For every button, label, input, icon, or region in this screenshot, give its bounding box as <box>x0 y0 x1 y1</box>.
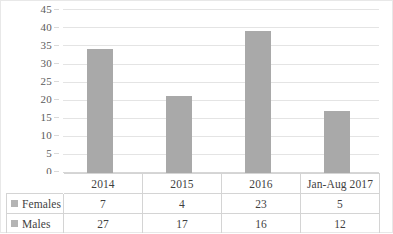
cell-males-jan-aug-2017: 12 <box>301 214 380 234</box>
cell-males-2015: 17 <box>143 214 222 234</box>
cell-males-2016: 16 <box>222 214 301 234</box>
y-axis-tick-mark <box>54 45 59 46</box>
column-chart-with-data-table: 45 40 35 30 25 20 15 10 5 0 <box>0 0 393 233</box>
bar-2015[interactable] <box>166 96 192 173</box>
plot-area <box>63 9 379 173</box>
table-row-males: Males 27 17 16 12 <box>7 214 380 234</box>
y-axis-tick-mark <box>54 153 59 154</box>
y-axis-tick-label: 45 <box>2 4 52 15</box>
y-axis-tick-mark <box>54 63 59 64</box>
legend-swatch-icon <box>11 200 18 207</box>
y-axis-tick-mark <box>54 117 59 118</box>
y-axis-tick-label: 35 <box>2 40 52 51</box>
y-axis-tick-label: 20 <box>2 94 52 105</box>
cell-males-2014: 27 <box>64 214 143 234</box>
y-axis-tick-mark <box>54 171 59 172</box>
y-axis-tick-label: 5 <box>2 148 52 159</box>
y-axis-tick-label: 15 <box>2 112 52 123</box>
y-axis-tick-label: 30 <box>2 58 52 69</box>
table-row-categories: 2014 2015 2016 Jan-Aug 2017 <box>7 174 380 194</box>
cell-females-2016: 23 <box>222 194 301 214</box>
bar-jan-aug-2017[interactable] <box>324 111 350 173</box>
table-row-females: Females 7 4 23 5 <box>7 194 380 214</box>
bar-series <box>63 9 379 173</box>
y-axis-tick-label: 25 <box>2 76 52 87</box>
legend-item-males: Males <box>7 214 64 234</box>
bar-2014[interactable] <box>87 49 113 173</box>
category-header-2015: 2015 <box>143 174 222 194</box>
data-table: 2014 2015 2016 Jan-Aug 2017 Females 7 4 … <box>6 173 380 233</box>
legend-label-males: Males <box>22 218 51 230</box>
legend-swatch-icon <box>11 220 18 227</box>
category-header-jan-aug-2017: Jan-Aug 2017 <box>301 174 380 194</box>
y-axis-tick-mark <box>54 9 59 10</box>
legend-label-females: Females <box>22 198 61 210</box>
y-axis-tick-mark <box>54 27 59 28</box>
cell-females-jan-aug-2017: 5 <box>301 194 380 214</box>
y-axis-tick-label: 40 <box>2 22 52 33</box>
bar-2016[interactable] <box>245 31 271 173</box>
category-header-2014: 2014 <box>64 174 143 194</box>
legend-item-females: Females <box>7 194 64 214</box>
y-axis-tick-mark <box>54 99 59 100</box>
cell-females-2014: 7 <box>64 194 143 214</box>
y-axis-tick-mark <box>54 81 59 82</box>
y-axis-tick-mark <box>54 135 59 136</box>
y-axis: 45 40 35 30 25 20 15 10 5 0 <box>1 1 61 181</box>
table-corner-cell <box>7 174 64 194</box>
cell-females-2015: 4 <box>143 194 222 214</box>
y-axis-tick-label: 10 <box>2 130 52 141</box>
category-header-2016: 2016 <box>222 174 301 194</box>
